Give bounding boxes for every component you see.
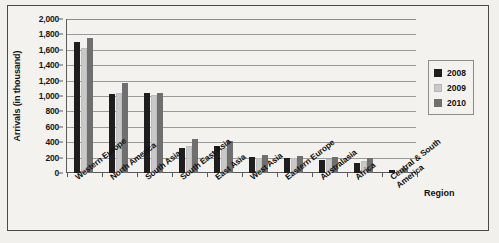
y-tick-mark bbox=[59, 34, 63, 35]
bar bbox=[109, 94, 115, 173]
y-tick-label: 1,600 bbox=[39, 45, 59, 55]
legend-color-swatch bbox=[434, 99, 442, 107]
y-tick-label: 600 bbox=[45, 122, 59, 132]
bar-chart: Arrivals (in thousand) 02004006008001,00… bbox=[8, 6, 490, 232]
legend-item: 2009 bbox=[434, 80, 466, 95]
y-tick-mark bbox=[59, 111, 63, 112]
bar bbox=[116, 93, 122, 173]
x-axis-category-labels: Western EuropeNorth AmericaSouth AsiaSou… bbox=[67, 174, 416, 232]
bar bbox=[151, 95, 157, 173]
legend-color-swatch bbox=[434, 69, 442, 77]
y-tick-mark bbox=[59, 173, 63, 174]
legend-label: 2009 bbox=[447, 83, 466, 93]
y-tick-mark bbox=[59, 80, 63, 81]
y-tick-label: 1,000 bbox=[39, 91, 59, 101]
y-tick-mark bbox=[59, 19, 63, 20]
y-tick-mark bbox=[59, 49, 63, 50]
x-axis-title: Region bbox=[424, 188, 455, 198]
bar bbox=[81, 48, 87, 174]
bar bbox=[87, 38, 93, 173]
y-tick-label: 200 bbox=[45, 153, 59, 163]
page-frame: Arrivals (in thousand) 02004006008001,00… bbox=[7, 5, 489, 231]
y-tick-mark bbox=[59, 157, 63, 158]
y-tick-label: 1,200 bbox=[39, 76, 59, 86]
y-tick-label: 1,400 bbox=[39, 60, 59, 70]
y-tick-mark bbox=[59, 65, 63, 66]
bar-group bbox=[277, 19, 312, 173]
legend-color-swatch bbox=[434, 84, 442, 92]
y-tick-mark bbox=[59, 126, 63, 127]
y-axis-tick-labels: 02004006008001,0001,2001,4001,6001,8002,… bbox=[18, 19, 63, 173]
y-tick-label: 2,000 bbox=[39, 14, 59, 24]
y-tick-label: 800 bbox=[45, 106, 59, 116]
bar-group bbox=[382, 19, 417, 173]
chart-legend: 200820092010 bbox=[428, 60, 474, 115]
legend-item: 2010 bbox=[434, 95, 466, 110]
legend-item: 2008 bbox=[434, 65, 466, 80]
bar-group bbox=[242, 19, 277, 173]
legend-label: 2010 bbox=[447, 98, 466, 108]
bar bbox=[144, 93, 150, 173]
y-tick-mark bbox=[59, 142, 63, 143]
legend-label: 2008 bbox=[447, 68, 466, 78]
bar-group bbox=[67, 19, 102, 173]
y-tick-label: 1,800 bbox=[39, 29, 59, 39]
bar bbox=[74, 42, 80, 173]
y-tick-mark bbox=[59, 96, 63, 97]
y-tick-label: 400 bbox=[45, 137, 59, 147]
